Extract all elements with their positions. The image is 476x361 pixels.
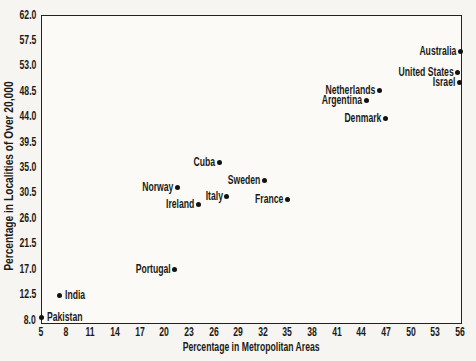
y-tick-text: 44.0 <box>19 110 36 123</box>
data-point-dot <box>175 185 180 190</box>
x-tick-label: 41 <box>330 326 343 339</box>
x-tick-text: 53 <box>431 326 441 339</box>
y-tick-text: 57.5 <box>19 34 36 47</box>
y-tick-label: 8.0 <box>19 314 36 327</box>
x-tick-label: 53 <box>429 326 442 339</box>
y-tick-label: 26.0 <box>13 212 36 225</box>
data-point-label: Israel <box>424 76 455 89</box>
data-point-label: Denmark <box>330 112 381 125</box>
plot-area <box>41 15 462 324</box>
data-point-dot <box>455 70 460 75</box>
data-point-dot <box>224 194 229 199</box>
y-tick-label: 57.5 <box>13 34 36 47</box>
y-tick-label: 30.5 <box>13 186 36 199</box>
x-tick-label: 56 <box>453 326 466 339</box>
data-point-label: Cuba <box>185 156 215 169</box>
data-point-label-text: Argentina <box>322 94 362 107</box>
x-tick-label: 5 <box>38 326 45 339</box>
data-point-dot <box>457 80 462 85</box>
x-tick-label: 47 <box>379 326 392 339</box>
data-point-dot <box>458 49 463 54</box>
y-tick-label: 12.5 <box>13 288 36 301</box>
y-tick-text: 48.5 <box>19 85 36 98</box>
x-tick-text: 56 <box>455 326 465 339</box>
y-tick-label: 39.5 <box>13 136 36 149</box>
y-tick-label: 17.0 <box>13 263 36 276</box>
data-point-label-text: Ireland <box>166 198 194 211</box>
x-tick-text: 14 <box>110 326 120 339</box>
data-point-label: Norway <box>130 181 173 194</box>
x-tick-text: 29 <box>233 326 243 339</box>
y-tick-text: 8.0 <box>24 314 36 327</box>
x-tick-label: 35 <box>281 326 294 339</box>
data-point-dot <box>262 178 267 183</box>
y-tick-label: 62.0 <box>13 9 36 22</box>
x-tick-text: 26 <box>209 326 219 339</box>
x-tick-label: 32 <box>256 326 269 339</box>
y-tick-text: 30.5 <box>19 186 36 199</box>
data-point-label-text: Italy <box>205 190 222 203</box>
x-tick-text: 38 <box>307 326 317 339</box>
data-point-label-text: India <box>65 289 85 302</box>
y-tick-text: 12.5 <box>19 288 36 301</box>
x-tick-text: 8 <box>63 326 68 339</box>
y-tick-text: 21.5 <box>19 237 36 250</box>
x-tick-label: 11 <box>84 326 97 339</box>
x-tick-text: 32 <box>258 326 268 339</box>
x-tick-label: 29 <box>231 326 244 339</box>
data-point-dot <box>217 160 222 165</box>
data-point-label: Pakistan <box>47 311 96 324</box>
data-point-label-text: Sweden <box>228 174 261 187</box>
y-tick-text: 39.5 <box>19 136 36 149</box>
y-tick-label: 53.0 <box>13 59 36 72</box>
x-tick-text: 47 <box>381 326 391 339</box>
x-tick-label: 44 <box>355 326 368 339</box>
x-tick-text: 20 <box>159 326 169 339</box>
x-tick-label: 14 <box>108 326 121 339</box>
x-tick-label: 23 <box>182 326 195 339</box>
x-tick-label: 26 <box>207 326 220 339</box>
data-point-label-text: Portugal <box>136 263 171 276</box>
y-tick-label: 21.5 <box>13 237 36 250</box>
x-tick-label: 38 <box>305 326 318 339</box>
data-point-label-text: Norway <box>142 181 173 194</box>
y-tick-label: 48.5 <box>13 85 36 98</box>
x-axis-title-text: Percentage in Metropolitan Areas <box>183 341 320 354</box>
x-tick-label: 17 <box>133 326 146 339</box>
x-tick-text: 41 <box>332 326 342 339</box>
y-tick-text: 26.0 <box>19 212 36 225</box>
y-tick-label: 35.0 <box>13 161 36 174</box>
x-tick-text: 17 <box>135 326 145 339</box>
data-point-label-text: Israel <box>433 76 456 89</box>
x-tick-text: 44 <box>357 326 367 339</box>
y-tick-text: 53.0 <box>19 59 36 72</box>
x-tick-label: 8 <box>62 326 69 339</box>
data-point-label-text: Cuba <box>194 156 216 169</box>
x-tick-label: 50 <box>404 326 417 339</box>
y-tick-text: 62.0 <box>19 9 36 22</box>
x-tick-label: 20 <box>158 326 171 339</box>
data-point-label: Ireland <box>155 198 194 211</box>
data-point-label: Italy <box>199 190 223 203</box>
x-tick-text: 35 <box>283 326 293 339</box>
x-tick-text: 50 <box>406 326 416 339</box>
data-point-dot <box>364 98 369 103</box>
data-point-label: Portugal <box>122 263 171 276</box>
data-point-label: Argentina <box>306 94 362 107</box>
data-point-label-text: France <box>255 193 283 206</box>
y-tick-text: 17.0 <box>19 263 36 276</box>
x-tick-text: 5 <box>39 326 44 339</box>
data-point-label-text: Australia <box>419 45 456 58</box>
y-tick-text: 35.0 <box>19 161 36 174</box>
x-tick-text: 23 <box>184 326 194 339</box>
x-axis-title: Percentage in Metropolitan Areas <box>41 341 462 354</box>
data-point-label: Australia <box>405 45 456 58</box>
data-point-label: France <box>244 193 283 206</box>
data-point-label-text: Pakistan <box>47 311 83 324</box>
x-tick-text: 11 <box>86 326 95 339</box>
y-tick-label: 44.0 <box>13 110 36 123</box>
data-point-label-text: Denmark <box>344 112 381 125</box>
data-point-label: India <box>65 289 93 302</box>
scatter-plot-figure: Percentage in Localities of Over 20,000 … <box>0 0 476 361</box>
data-point-label: Sweden <box>215 174 260 187</box>
